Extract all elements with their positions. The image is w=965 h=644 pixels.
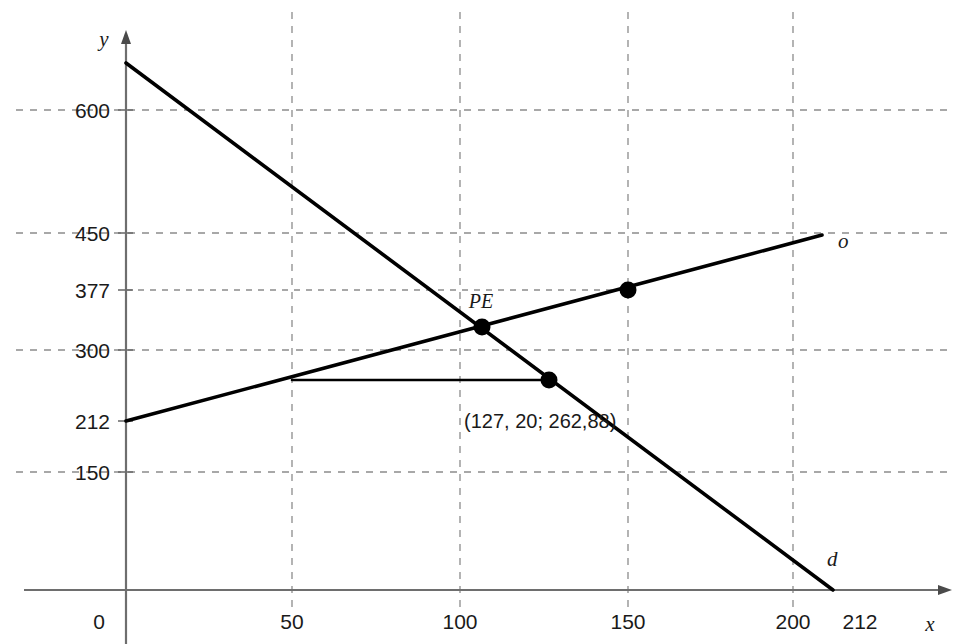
x-tick-label-212: 212 xyxy=(842,610,877,633)
x-axis-label: x xyxy=(924,612,935,636)
y-tick-label-212: 212 xyxy=(75,410,110,433)
x-tick-label-150: 150 xyxy=(610,610,645,633)
data-point-markers xyxy=(474,282,637,389)
y-tick-label-377: 377 xyxy=(75,279,110,302)
equilibrium-point-marker[interactable] xyxy=(474,319,491,336)
annotated-point-marker[interactable] xyxy=(541,372,558,389)
demand-curve-label: d xyxy=(827,547,838,571)
curve-labels: o d xyxy=(827,229,849,571)
x-tick-label-50: 50 xyxy=(280,610,303,633)
x-tick-label-100: 100 xyxy=(442,610,477,633)
y-axis-label: y xyxy=(97,27,109,51)
x-tick-labels: 0 50 100 150 200 212 xyxy=(93,610,877,633)
vertical-gridlines xyxy=(292,12,793,612)
supply-curve-label: o xyxy=(838,229,849,253)
y-tick-label-600: 600 xyxy=(75,99,110,122)
y-tick-label-450: 450 xyxy=(75,222,110,245)
y-tick-label-300: 300 xyxy=(75,339,110,362)
supply-demand-chart: 600 450 377 300 212 150 0 50 100 150 200… xyxy=(0,0,965,644)
y-tick-label-150: 150 xyxy=(75,461,110,484)
x-tick-label-0: 0 xyxy=(93,610,105,633)
x-tick-label-200: 200 xyxy=(775,610,810,633)
coordinate-annotation-label: (127, 20; 262,88) xyxy=(464,410,616,432)
equilibrium-point-label: PE xyxy=(468,290,493,312)
supply-point-150-marker[interactable] xyxy=(620,282,637,299)
chart-canvas: 600 450 377 300 212 150 0 50 100 150 200… xyxy=(0,0,965,644)
x-axis-arrow-icon xyxy=(938,585,952,595)
y-axis-arrow-icon xyxy=(121,30,131,44)
axes xyxy=(24,30,952,644)
axis-names: y x xyxy=(97,27,935,636)
y-tick-labels: 600 450 377 300 212 150 xyxy=(75,99,110,484)
